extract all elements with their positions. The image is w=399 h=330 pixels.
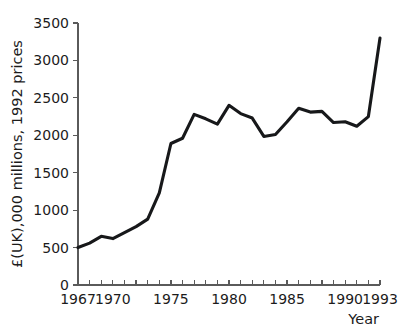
x-tick-label: 1985 [269,291,305,307]
y-tick-label: 3000 [33,52,69,68]
data-series-line [78,38,380,248]
x-tick-label: 1970 [95,291,131,307]
y-axis-ticks [73,23,78,285]
x-tick-label: 1990 [327,291,363,307]
x-tick-label: 1993 [362,291,398,307]
y-axis-tick-labels: 0500100015002000250030003500 [33,15,69,293]
x-axis-title: Year [347,311,379,327]
y-axis-title: £(UK),000 millions, 1992 prices [9,40,25,268]
y-tick-label: 500 [42,240,69,256]
y-tick-label: 1000 [33,202,69,218]
y-tick-label: 2000 [33,127,69,143]
x-tick-label: 1975 [153,291,189,307]
x-axis-ticks [78,280,380,285]
x-axis-tick-labels: 1967197019751980198519901993 [60,291,398,307]
y-tick-label: 1500 [33,165,69,181]
y-tick-label: 3500 [33,15,69,31]
x-tick-label: 1980 [211,291,247,307]
y-tick-label: 2500 [33,90,69,106]
chart-container: 0500100015002000250030003500 19671970197… [0,0,399,330]
x-tick-label: 1967 [60,291,96,307]
line-chart-plot: 0500100015002000250030003500 19671970197… [0,0,399,330]
